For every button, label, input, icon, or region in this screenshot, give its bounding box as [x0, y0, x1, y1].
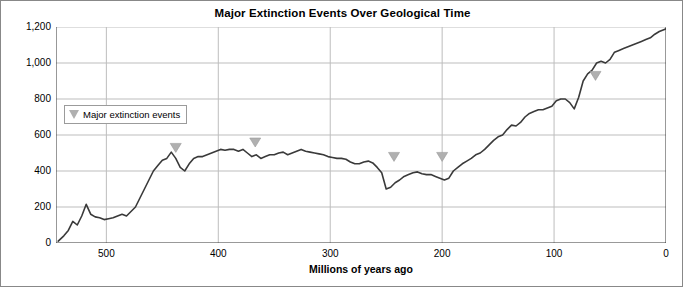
x-tick-label: 0	[646, 249, 683, 259]
x-tick-label: 500	[86, 249, 126, 259]
x-tick-label: 300	[310, 249, 350, 259]
x-tick-label: 200	[422, 249, 462, 259]
legend-label: Major extinction events	[83, 109, 180, 120]
x-tick-label: 400	[198, 249, 238, 259]
extinction-event-marker	[590, 71, 601, 80]
down-triangle-icon	[69, 110, 79, 119]
extinction-event-marker	[389, 152, 400, 161]
y-tick-label: 0	[5, 238, 51, 248]
plot-area: Major extinction events	[56, 27, 666, 243]
x-axis-label: Millions of years ago	[56, 263, 666, 275]
y-tick-label: 200	[5, 202, 51, 212]
series-plot	[56, 27, 666, 243]
y-tick-label: 1,200	[5, 22, 51, 32]
y-tick-label: 600	[5, 130, 51, 140]
chart-title: Major Extinction Events Over Geological …	[1, 7, 683, 19]
y-tick-label: 400	[5, 166, 51, 176]
chart-container: Major Extinction Events Over Geological …	[0, 0, 683, 287]
extinction-event-marker	[250, 138, 261, 147]
y-tick-label: 1,000	[5, 58, 51, 68]
x-tick-label: 100	[534, 249, 574, 259]
extinction-event-marker	[437, 152, 448, 161]
y-tick-label: 800	[5, 94, 51, 104]
extinction-event-marker	[170, 143, 181, 152]
legend: Major extinction events	[64, 105, 187, 124]
